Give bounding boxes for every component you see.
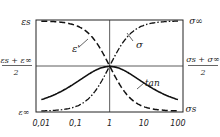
left-mid-label-numerator: εs + ε∞ <box>0 56 31 65</box>
label-epsilon-prime: ε' <box>72 43 80 54</box>
label-epsilon-prime-leader <box>79 39 88 47</box>
left-bottom-label: ε∞ <box>19 108 30 117</box>
left-top-label: εs <box>21 17 31 27</box>
right-bottom-label: σs <box>186 104 197 114</box>
right-top-label: σ∞ <box>189 16 203 26</box>
x-tick-label: 0,01 <box>32 119 50 128</box>
x-tick-label: 100 <box>170 119 185 128</box>
x-tick-label: 0,1 <box>69 119 82 128</box>
x-tick-label: 10 <box>139 119 149 128</box>
chart: 0,010,1110100 ε'σtanεsεs + ε∞2ε∞σ∞σs + σ… <box>0 0 220 137</box>
label-tan-leader <box>137 83 144 89</box>
right-mid-label-numerator: σs + σ∞ <box>186 55 219 64</box>
label-sigma: σ <box>136 39 144 50</box>
x-tick-label: 1 <box>107 119 112 128</box>
right-mid-label-denominator: 2 <box>199 68 205 77</box>
label-tan: tan <box>145 78 160 88</box>
left-mid-label-denominator: 2 <box>12 68 18 77</box>
